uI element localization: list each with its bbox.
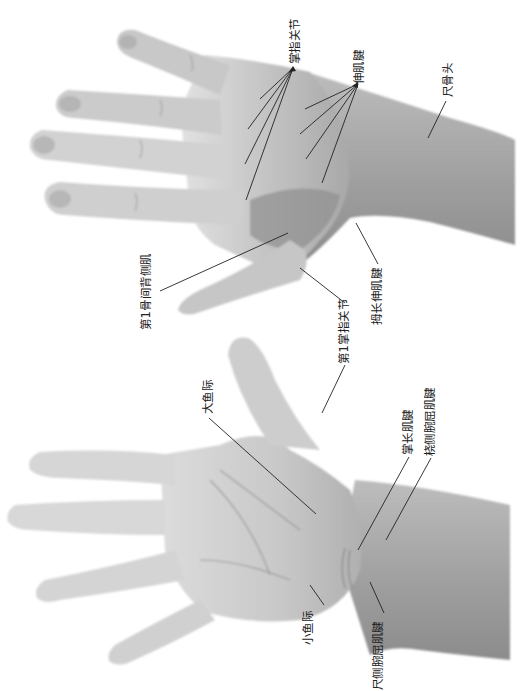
label-extensor-tendons: 伸肌腱 — [354, 50, 366, 85]
nail-little — [119, 35, 137, 49]
label-ulnar-head: 尺骨头 — [443, 63, 455, 98]
palmar-thumb — [228, 338, 320, 450]
nail-middle — [33, 136, 55, 154]
label-thenar-eminence: 大鱼际 — [203, 380, 215, 415]
label-hypothenar-eminence: 小鱼际 — [303, 611, 315, 646]
label-palmaris-longus: 掌长肌腱 — [403, 409, 415, 455]
label-flexor-carpi-radialis: 桡侧腕屈肌腱 — [425, 387, 437, 456]
hand-anatomy-figure — [0, 0, 524, 691]
label-flexor-carpi-ulnaris: 尺侧腕屈肌腱 — [373, 621, 385, 690]
palmar-finger-middle — [7, 500, 165, 535]
label-extensor-pollicis-longus: 拇长伸肌腱 — [372, 268, 384, 326]
palmar-finger-index — [29, 451, 175, 485]
label-first-mcp-joint: 第1掌指关节 — [339, 299, 351, 364]
palmar-forearm — [340, 480, 510, 660]
palmar-finger-ring — [36, 550, 185, 602]
nail-index — [49, 190, 71, 208]
palmar-finger-little — [108, 600, 215, 665]
nail-ring — [59, 96, 81, 112]
label-first-dorsal-interosseous: 第1骨间背侧肌 — [141, 253, 153, 330]
label-mcp-joints: 掌指关节 — [290, 18, 302, 64]
